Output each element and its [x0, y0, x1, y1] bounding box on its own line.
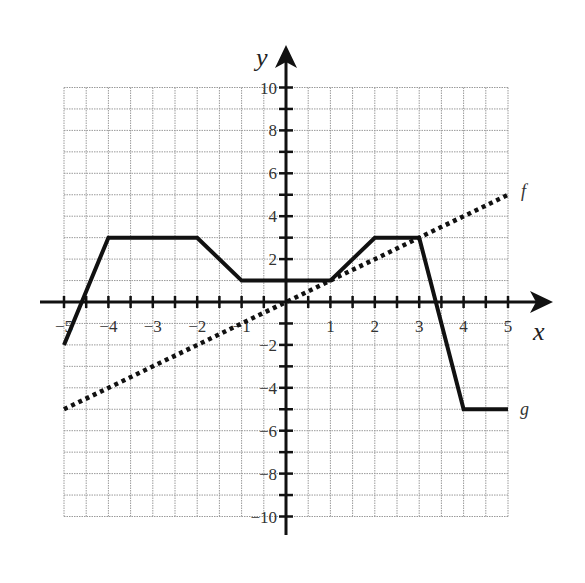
x-tick-label: −2 — [188, 317, 206, 336]
y-tick-label: 6 — [269, 164, 278, 183]
series-label-f: f — [521, 181, 529, 201]
series-label-g: g — [520, 399, 529, 419]
y-tick-label: −10 — [250, 508, 277, 527]
x-tick-label: 2 — [371, 317, 380, 336]
y-tick-label: 4 — [269, 207, 278, 226]
coordinate-plane: −5−4−3−2−112345−10−8−6−4−2246810 x y f g — [0, 0, 585, 583]
y-tick-label: 8 — [269, 121, 278, 140]
y-axis-label: y — [253, 43, 268, 72]
x-tick-label: 1 — [326, 317, 335, 336]
x-tick-label: 5 — [504, 317, 513, 336]
axes — [40, 45, 553, 535]
y-tick-label: −6 — [259, 422, 277, 441]
y-tick-label: −4 — [259, 379, 278, 398]
x-tick-label: −4 — [99, 317, 118, 336]
x-tick-label: −3 — [144, 317, 162, 336]
x-tick-label: 3 — [415, 317, 424, 336]
x-tick-label: −1 — [233, 317, 251, 336]
x-tick-label: 4 — [459, 317, 468, 336]
x-axis-label: x — [532, 317, 545, 346]
y-tick-label: −2 — [259, 336, 277, 355]
y-tick-label: −8 — [259, 465, 277, 484]
y-tick-label: 2 — [269, 250, 278, 269]
y-tick-label: 10 — [260, 79, 277, 98]
